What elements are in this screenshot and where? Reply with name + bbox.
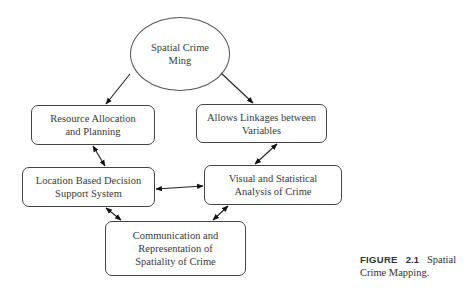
node-label-line1: Visual and Statistical: [229, 172, 318, 185]
edge-linkages-visual: [255, 144, 277, 164]
node-label-line1: Allows Linkages between: [207, 111, 316, 124]
caption-label: FIGURE: [360, 254, 398, 265]
edge-root-linkages: [221, 73, 253, 103]
node-location-based-decision: Location Based Decision Support System: [22, 167, 155, 207]
edge-location-communication: [106, 208, 121, 220]
edge-root-resource: [106, 74, 130, 104]
edge-resource-location: [93, 146, 105, 166]
node-label-line1: Spatial Crime: [151, 41, 209, 54]
node-label-line2: Ming: [151, 54, 209, 67]
node-label-line3: Spatiality of Crime: [133, 255, 218, 268]
node-label-line2: Variables: [207, 124, 316, 137]
node-spatial-crime-ming: Spatial Crime Ming: [130, 17, 230, 91]
edge-location-visual: [156, 186, 203, 189]
figure-caption: FIGURE2.1Spatial Crime Mapping.: [360, 253, 470, 279]
node-label-line1: Location Based Decision: [36, 174, 142, 187]
node-resource-allocation: Resource Allocation and Planning: [31, 105, 155, 145]
node-visual-statistical: Visual and Statistical Analysis of Crime: [204, 165, 342, 205]
node-label-line2: Representation of: [133, 242, 218, 255]
caption-text-line1: Spatial: [427, 254, 456, 265]
node-label-line1: Resource Allocation: [50, 112, 135, 125]
caption-number: 2.1: [406, 254, 419, 265]
node-label-line2: Support System: [36, 187, 142, 200]
edge-visual-communication: [213, 206, 228, 220]
node-allows-linkages: Allows Linkages between Variables: [196, 104, 327, 143]
node-label-line1: Communication and: [133, 229, 218, 242]
node-label-line2: Analysis of Crime: [229, 185, 318, 198]
caption-text-line2: Crime Mapping.: [360, 266, 470, 279]
node-communication: Communication and Representation of Spat…: [105, 221, 246, 276]
node-label-line2: and Planning: [50, 125, 135, 138]
